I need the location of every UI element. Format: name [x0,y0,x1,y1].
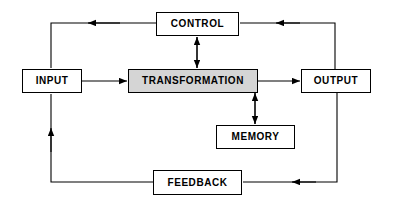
diagram-canvas: CONTROL INPUT TRANSFORMATION OUTPUT MEMO… [0,0,394,209]
node-memory[interactable]: MEMORY [216,125,295,149]
node-transformation-label: TRANSFORMATION [142,76,244,86]
connector-control-to-input [51,23,156,68]
node-feedback[interactable]: FEEDBACK [153,170,242,195]
node-input[interactable]: INPUT [22,69,82,93]
node-memory-label: MEMORY [232,132,280,142]
node-transformation[interactable]: TRANSFORMATION [128,69,258,93]
connector-output-to-control [240,23,335,69]
node-output-label: OUTPUT [314,76,358,86]
connector-feedback-to-input [51,94,153,182]
node-feedback-label: FEEDBACK [168,178,228,188]
node-control[interactable]: CONTROL [156,12,239,36]
node-output[interactable]: OUTPUT [301,69,371,93]
node-control-label: CONTROL [171,19,224,29]
node-input-label: INPUT [36,76,69,86]
